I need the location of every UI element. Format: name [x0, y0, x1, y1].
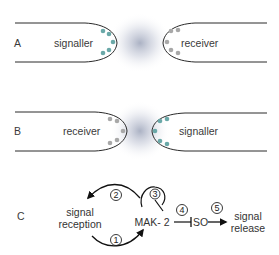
- step-number-2: 2: [111, 190, 122, 201]
- signal-release-label: signal release: [228, 210, 268, 234]
- mak2-label: MAK- 2: [130, 216, 174, 228]
- signaller-label: signaller: [54, 37, 93, 49]
- signaller-label: signaller: [179, 125, 218, 137]
- so-label: SO: [193, 216, 208, 228]
- receiver-label: receiver: [63, 125, 100, 137]
- signal-halo: [108, 13, 172, 73]
- signal-halo: [110, 101, 170, 161]
- signal-reception-label: signal reception: [55, 206, 105, 230]
- step-number-5: 5: [212, 203, 223, 214]
- step-number-4: 4: [177, 205, 188, 216]
- loop-step-3-tail: [155, 200, 163, 211]
- receiver-label: receiver: [181, 37, 218, 49]
- panel-letter-c: C: [17, 210, 25, 222]
- panel-letter-b: B: [14, 125, 21, 137]
- step-number-1: 1: [111, 235, 122, 246]
- step-number-3: 3: [150, 189, 161, 200]
- panel-a: [15, 13, 267, 73]
- panel-b: [15, 101, 267, 161]
- panel-letter-a: A: [14, 37, 21, 49]
